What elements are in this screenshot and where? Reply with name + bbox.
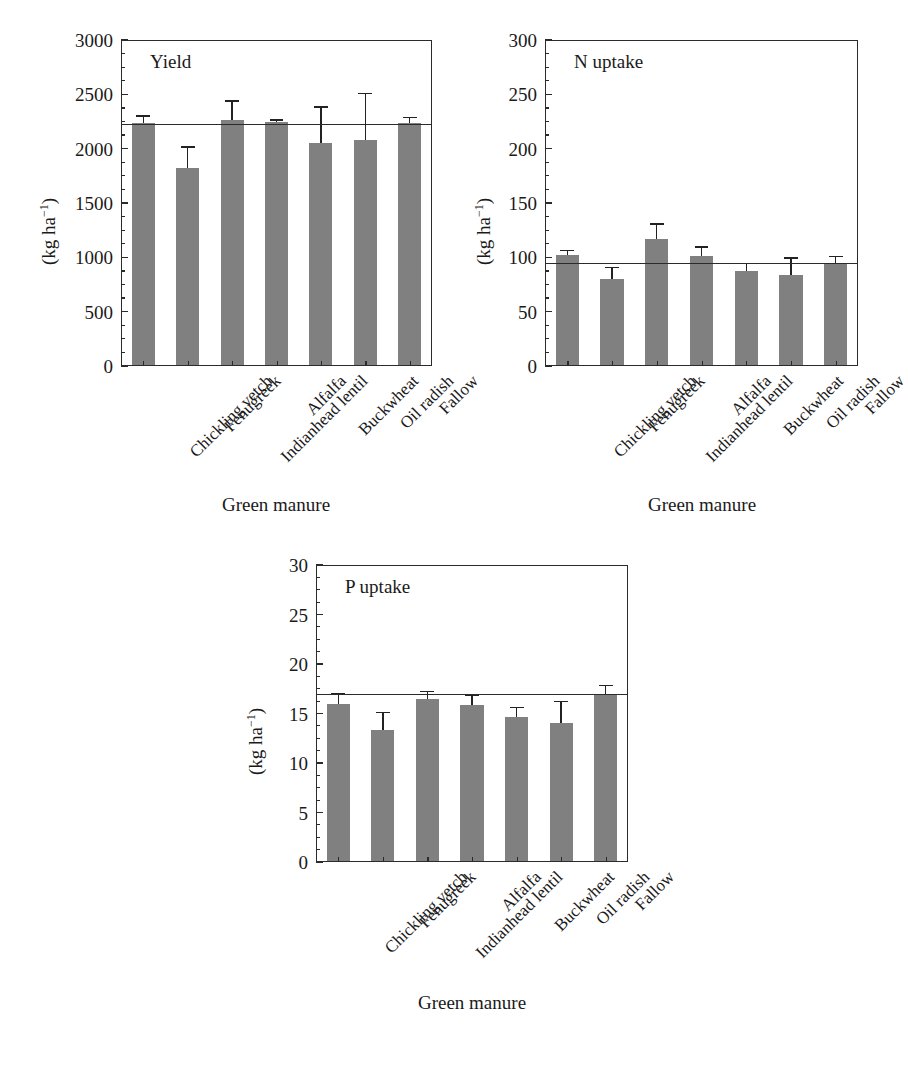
y-axis-tick-major bbox=[121, 148, 128, 149]
error-bar-cap bbox=[420, 691, 434, 693]
y-axis-tick-major bbox=[121, 311, 128, 312]
x-axis-label-p-uptake: Green manure bbox=[372, 993, 572, 1012]
x-axis-tick bbox=[561, 857, 562, 862]
y-axis-tick-minor bbox=[121, 325, 125, 326]
bar bbox=[309, 143, 332, 365]
x-axis-tick bbox=[232, 361, 233, 366]
bar bbox=[327, 704, 350, 861]
y-axis-tick-minor bbox=[545, 338, 549, 339]
y-axis-tick-major bbox=[545, 311, 552, 312]
y-axis-tick-label: 1000 bbox=[43, 248, 113, 267]
y-axis-tick-major bbox=[316, 663, 323, 664]
y-axis-tick-label: 300 bbox=[467, 31, 537, 50]
y-axis-tick-minor bbox=[545, 230, 549, 231]
y-axis-tick-minor bbox=[316, 589, 320, 590]
y-axis-tick-minor bbox=[316, 849, 320, 850]
y-axis-tick-major bbox=[316, 564, 323, 565]
y-axis-tick-major bbox=[316, 713, 323, 714]
error-bar-cap bbox=[829, 256, 843, 258]
error-bar-stem bbox=[656, 223, 657, 239]
y-axis-tick-minor bbox=[545, 134, 549, 135]
y-axis-tick-major bbox=[121, 202, 128, 203]
y-axis-tick-minor bbox=[121, 67, 125, 68]
y-axis-tick-label: 0 bbox=[238, 853, 308, 872]
y-axis-tick-label: 15 bbox=[238, 705, 308, 724]
error-bar-stem bbox=[187, 146, 188, 168]
y-axis-tick-minor bbox=[545, 121, 549, 122]
error-bar bbox=[181, 146, 195, 168]
error-bar-cap bbox=[650, 223, 664, 225]
y-axis-tick-minor bbox=[316, 725, 320, 726]
error-bar-cap bbox=[270, 119, 284, 121]
x-axis-tick bbox=[517, 857, 518, 862]
bar bbox=[690, 256, 713, 365]
y-axis-tick-minor bbox=[545, 270, 549, 271]
y-axis-tick-minor bbox=[121, 189, 125, 190]
y-axis-tick-minor bbox=[121, 175, 125, 176]
y-axis-tick-minor bbox=[545, 216, 549, 217]
y-axis-tick-major bbox=[316, 762, 323, 763]
bar bbox=[416, 699, 439, 861]
y-axis-tick-minor bbox=[316, 577, 320, 578]
y-axis-tick-label: 0 bbox=[467, 357, 537, 376]
reference-line bbox=[121, 124, 432, 125]
error-bar-stem bbox=[516, 707, 517, 718]
bar bbox=[600, 279, 623, 365]
bar bbox=[354, 140, 377, 365]
y-axis-tick-minor bbox=[121, 270, 125, 271]
y-axis-tick-minor bbox=[545, 67, 549, 68]
x-axis-tick bbox=[383, 857, 384, 862]
error-bar bbox=[560, 250, 574, 255]
error-bar-cap bbox=[605, 267, 619, 269]
y-axis-tick-major bbox=[121, 257, 128, 258]
error-bar-cap bbox=[403, 117, 417, 119]
y-axis-tick-minor bbox=[121, 352, 125, 353]
reference-line bbox=[545, 263, 858, 264]
error-bar bbox=[510, 707, 524, 718]
y-axis-tick-minor bbox=[545, 162, 549, 163]
y-axis-tick-major bbox=[121, 39, 128, 40]
y-axis-tick-minor bbox=[316, 651, 320, 652]
bar bbox=[824, 263, 847, 365]
y-axis-tick-label: 25 bbox=[238, 606, 308, 625]
error-bar bbox=[695, 246, 709, 256]
y-axis-tick-major bbox=[121, 94, 128, 95]
y-axis-tick-label: 250 bbox=[467, 85, 537, 104]
y-axis-tick-minor bbox=[545, 352, 549, 353]
bar bbox=[735, 271, 758, 365]
y-axis-tick-major bbox=[545, 148, 552, 149]
y-axis-tick-minor bbox=[121, 338, 125, 339]
x-axis-tick bbox=[702, 361, 703, 366]
y-axis-tick-label: 2000 bbox=[43, 140, 113, 159]
y-axis-tick-minor bbox=[316, 676, 320, 677]
error-bar-cap bbox=[376, 712, 390, 714]
error-bar bbox=[136, 115, 150, 123]
y-axis-tick-minor bbox=[316, 626, 320, 627]
y-axis-tick-minor bbox=[545, 53, 549, 54]
error-bar bbox=[376, 712, 390, 731]
y-axis-tick-major bbox=[316, 812, 323, 813]
bar bbox=[505, 717, 528, 861]
x-axis-tick bbox=[365, 361, 366, 366]
x-axis-tick bbox=[567, 361, 568, 366]
y-axis-tick-label: 30 bbox=[238, 556, 308, 575]
y-axis-tick-major bbox=[316, 861, 323, 862]
y-axis-tick-label: 500 bbox=[43, 303, 113, 322]
y-axis-tick-label: 100 bbox=[467, 248, 537, 267]
y-axis-tick-minor bbox=[545, 175, 549, 176]
bar bbox=[550, 723, 573, 861]
y-axis-tick-minor bbox=[545, 243, 549, 244]
error-bar bbox=[605, 267, 619, 279]
y-axis-tick-minor bbox=[316, 701, 320, 702]
error-bar bbox=[403, 117, 417, 124]
y-axis-tick-label: 2500 bbox=[43, 85, 113, 104]
y-axis-tick-major bbox=[545, 365, 552, 366]
bar bbox=[398, 123, 421, 365]
error-bar-cap bbox=[554, 701, 568, 703]
y-axis-tick-minor bbox=[121, 284, 125, 285]
y-axis-tick-label: 200 bbox=[467, 140, 537, 159]
y-axis-tick-minor bbox=[121, 230, 125, 231]
x-axis-tick bbox=[410, 361, 411, 366]
y-axis-tick-label: 20 bbox=[238, 655, 308, 674]
error-bar-stem bbox=[790, 257, 791, 274]
